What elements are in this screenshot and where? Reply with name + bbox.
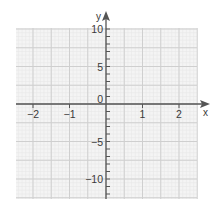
x-tick-label: 2 bbox=[176, 108, 182, 120]
y-tick-label: 5 bbox=[97, 61, 103, 73]
x-tick-label: −1 bbox=[64, 108, 76, 120]
y-tick-label: −5 bbox=[91, 136, 103, 148]
origin-label: 0 bbox=[97, 93, 103, 105]
x-tick-label: −2 bbox=[27, 108, 39, 120]
y-tick-label: −10 bbox=[85, 173, 103, 185]
y-tick-label: 10 bbox=[91, 23, 103, 35]
y-axis-label: y bbox=[96, 11, 101, 22]
x-axis-label: x bbox=[203, 107, 208, 118]
x-tick-label: 1 bbox=[140, 108, 146, 120]
coordinate-plane: −2−112−10−50510 x y bbox=[0, 0, 219, 213]
